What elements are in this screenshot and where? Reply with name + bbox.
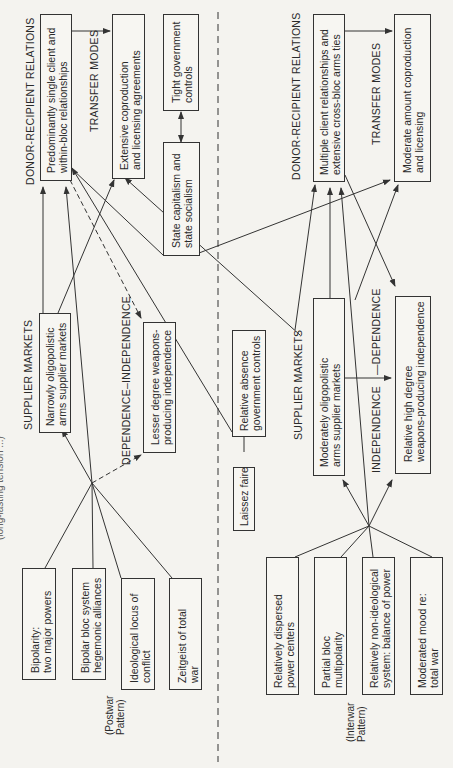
postwar-box-bipolarity: Bipolarity: two major powers (22, 568, 56, 680)
postwar-box-supplier-text: Narrowly oligopolistic arms supplier mar… (44, 323, 68, 426)
postwar-box-ideological: Ideological locus of conflict (121, 578, 155, 690)
interwar-box-laissez-text: Laissez faire (238, 467, 250, 526)
postwar-box-tight-controls: Tight government controls (163, 14, 199, 111)
interwar-box-high-text: Relative high degree weapons-producing i… (402, 301, 426, 462)
postwar-box-ideological-text: Ideological locus of conflict (128, 594, 152, 683)
postwar-box-bipolarity-text: Bipolarity: two major powers (29, 591, 53, 673)
interwar-box-relative-absence: Relative absence government controls (232, 330, 266, 437)
interwar-box-absence-text: Relative absence government controls (238, 336, 262, 431)
interwar-box-laissez-faire: Laissez faire (233, 467, 255, 531)
interwar-heading-dependence: —DEPENDENCE (370, 288, 382, 375)
interwar-box-transfer: Moderate amount coproduction and licensi… (394, 14, 431, 182)
postwar-heading-dependence: DEPENDENCE–INDEPENDENCE (120, 296, 132, 465)
postwar-box-donor-text: Predominantly single client and within-b… (45, 28, 69, 173)
postwar-box-lesser-degree: Lesser degree weapons- producing indepen… (143, 322, 176, 453)
interwar-box-high-degree: Relative high degree weapons-producing i… (395, 296, 431, 474)
postwar-box-transfer-text: Extensive coproduction and licensing agr… (118, 50, 142, 170)
interwar-box-partial-bloc: Partial bloc multipolarity (314, 557, 347, 695)
postwar-pattern-label: (Postwar Pattern) (104, 696, 126, 735)
interwar-box-dispersed: Relatively dispersed power centers (266, 557, 299, 695)
interwar-box-supplier-text: Moderately oligopolistic arms supplier m… (318, 358, 342, 467)
postwar-box-zeitgeist: Zeitgeist of total war (169, 578, 202, 690)
postwar-heading-supplier-markets: SUPPLIER MARKETS (22, 320, 34, 430)
interwar-heading-donor-recipient: DONOR-RECIPIENT RELATIONS (290, 12, 302, 180)
postwar-heading-transfer-modes: TRANSFER MODES (88, 30, 100, 132)
interwar-heading-independence: INDEPENDENCE (370, 386, 382, 473)
interwar-box-nonideo-text: Relatively non-ideological system: balan… (368, 569, 392, 688)
interwar-heading-supplier-markets: SUPPLIER MARKETS (292, 330, 304, 440)
interwar-box-donor: Multiple client relationships and extens… (313, 14, 345, 182)
interwar-box-transfer-text: Moderate amount coproduction and licensi… (401, 28, 425, 173)
postwar-box-transfer: Extensive coproduction and licensing agr… (112, 14, 145, 179)
interwar-box-donor-text: Multiple client relationships and extens… (318, 29, 342, 175)
cut-off-title: (long-lasting tension ...) (0, 436, 5, 540)
postwar-box-supplier: Narrowly oligopolistic arms supplier mar… (39, 313, 71, 433)
postwar-box-bloc-text: Bipolar bloc system hegemonic alliances (79, 578, 103, 673)
diagram-canvas: (long-lasting tension ...) DONOR-RECIPIE… (0, 0, 453, 768)
postwar-box-state-text: State capitalism and state socialism (170, 153, 194, 248)
interwar-box-partial-text: Partial bloc multipolarity (320, 632, 344, 688)
interwar-heading-transfer-modes: TRANSFER MODES (370, 43, 382, 145)
interwar-box-moderated-mood: Moderated mood re: total war (410, 557, 443, 695)
postwar-box-state-capitalism: State capitalism and state socialism (163, 142, 200, 256)
interwar-pattern-label: (Interwar Pattern) (345, 703, 367, 742)
interwar-box-moderated-text: Moderated mood re: total war (416, 593, 440, 688)
postwar-box-zeitgeist-text: Zeitgeist of total war (176, 609, 200, 683)
interwar-box-non-ideological: Relatively non-ideological system: balan… (362, 557, 395, 695)
postwar-box-bipolar-bloc: Bipolar bloc system hegemonic alliances (72, 568, 106, 680)
postwar-box-tight-text: Tight government controls (170, 22, 194, 103)
interwar-box-supplier: Moderately oligopolistic arms supplier m… (313, 298, 345, 476)
interwar-box-dispersed-text: Relatively dispersed power centers (272, 594, 296, 688)
postwar-box-lesser-text: Lesser degree weapons- producing indepen… (149, 329, 173, 445)
postwar-heading-donor-recipient: DONOR-RECIPIENT RELATIONS (24, 17, 36, 185)
postwar-box-donor: Predominantly single client and within-b… (40, 14, 72, 181)
